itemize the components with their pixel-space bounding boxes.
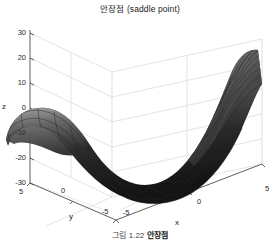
figure-caption-text: 안장점 xyxy=(147,231,168,240)
y-tick-label: 5 xyxy=(14,187,28,196)
z-tick-label: 30 xyxy=(6,28,26,37)
z-tick-label: 20 xyxy=(6,53,26,62)
surface-plot-area: 30 20 10 0 -10 -20 -30 5 0 -5 -5 0 5 z y… xyxy=(0,14,280,226)
x-tick-label: 5 xyxy=(260,184,274,193)
saddle-surface xyxy=(4,48,262,206)
y-tick-label: 0 xyxy=(56,186,70,195)
y-axis-label: y xyxy=(69,212,73,221)
y-tick-label: -5 xyxy=(96,207,114,216)
x-tick-label: -5 xyxy=(117,208,135,217)
figure-caption-number: 그림 1.22 xyxy=(112,231,144,240)
figure-container: 안장점 (saddle point) xyxy=(0,0,280,240)
z-tick-label: 10 xyxy=(6,78,26,87)
z-tick-label: -20 xyxy=(2,153,26,162)
z-tick-label: -30 xyxy=(2,178,26,187)
z-axis-label: z xyxy=(2,102,6,111)
z-tick-label: 0 xyxy=(6,103,26,112)
chart-title: 안장점 (saddle point) xyxy=(0,2,280,14)
figure-caption: 그림 1.22 안장점 xyxy=(0,229,280,240)
z-tick-label: -10 xyxy=(2,128,26,137)
x-tick-label: 0 xyxy=(192,197,206,206)
x-axis-label: x xyxy=(175,218,179,227)
axes-svg xyxy=(0,14,280,226)
